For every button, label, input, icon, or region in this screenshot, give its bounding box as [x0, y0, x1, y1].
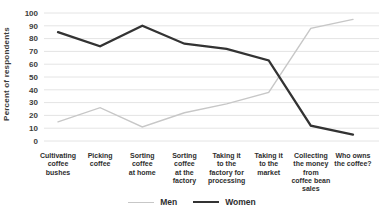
x-category-label: to the: [259, 160, 278, 167]
x-category-label: Who owns: [335, 152, 370, 159]
x-category-label: at home: [129, 169, 156, 176]
x-category-label: at the: [175, 169, 194, 176]
x-category-label: bushes: [46, 169, 71, 176]
x-category-label: from: [303, 169, 319, 176]
x-category-label: coffee: [174, 160, 195, 167]
x-category-label: to the: [217, 160, 236, 167]
chart-legend: MenWomen: [0, 197, 384, 207]
y-tick-label: 40: [29, 86, 38, 95]
series-line-men: [58, 19, 353, 127]
x-category-label: market: [257, 169, 281, 176]
y-tick-label: 90: [29, 22, 38, 31]
legend-label: Women: [225, 197, 256, 207]
y-tick-label: 60: [29, 60, 38, 69]
series-line-women: [58, 26, 353, 135]
legend-line-swatch: [128, 202, 154, 203]
x-category-label: Picking: [88, 152, 113, 160]
line-chart: 0102030405060708090100Cultivatingcoffeeb…: [0, 0, 384, 213]
x-category-label: coffee: [48, 160, 69, 167]
x-category-label: Sorting: [172, 152, 197, 160]
y-tick-label: 100: [25, 9, 39, 18]
y-tick-label: 20: [29, 111, 38, 120]
x-category-label: coffee bean: [291, 177, 330, 184]
x-category-label: Sorting: [130, 152, 155, 160]
y-tick-label: 70: [29, 47, 38, 56]
y-tick-label: 30: [29, 98, 38, 107]
legend-item-men: Men: [128, 197, 177, 207]
x-category-label: processing: [208, 177, 245, 185]
y-tick-label: 10: [29, 124, 38, 133]
x-category-label: coffee: [90, 160, 111, 167]
legend-line-swatch: [193, 201, 219, 203]
legend-label: Men: [160, 197, 177, 207]
y-tick-label: 80: [29, 34, 38, 43]
chart-panel: Percent of respondents 01020304050607080…: [0, 0, 384, 213]
x-category-label: the money: [293, 160, 328, 168]
x-category-label: the coffee?: [334, 160, 371, 167]
x-category-label: Taking it: [212, 152, 241, 160]
x-category-label: Collecting: [294, 152, 328, 160]
x-category-label: Taking it: [255, 152, 284, 160]
x-category-label: sales: [302, 185, 320, 192]
x-category-label: factory: [173, 177, 196, 185]
x-category-label: Cultivating: [40, 152, 76, 160]
y-tick-label: 50: [29, 73, 38, 82]
x-category-label: factory for: [209, 169, 244, 177]
x-category-label: coffee: [132, 160, 153, 167]
legend-item-women: Women: [193, 197, 256, 207]
y-tick-label: 0: [34, 137, 39, 146]
